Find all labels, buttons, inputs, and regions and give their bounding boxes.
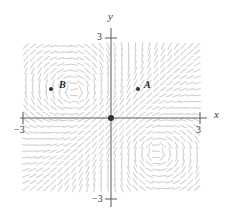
slope-dash: [106, 124, 111, 130]
slope-dash: [92, 44, 97, 49]
slope-dash: [140, 180, 146, 185]
slope-dash: [70, 107, 77, 108]
slope-dash: [51, 186, 56, 191]
slope-dash: [146, 112, 152, 116]
slope-dash: [146, 143, 151, 148]
slope-dash: [57, 58, 64, 60]
slope-dash: [187, 95, 194, 96]
slope-dash: [162, 148, 163, 155]
slope-dash: [51, 174, 56, 179]
slope-dash: [79, 173, 82, 179]
slope-dash: [187, 113, 194, 115]
slope-dash: [44, 105, 49, 110]
slope-dash: [173, 88, 180, 91]
slope-dash: [175, 160, 179, 166]
slope-dash: [86, 166, 89, 172]
slope-dash: [174, 174, 180, 178]
slope-dash: [188, 43, 193, 48]
slope-dash: [30, 112, 36, 117]
slope-dash: [166, 101, 173, 103]
slope-dash: [140, 167, 145, 172]
slope-dash: [57, 46, 64, 47]
slope-dash: [77, 113, 84, 116]
slope-dash: [65, 173, 70, 179]
slope-dash: [29, 125, 36, 128]
slope-dash: [43, 112, 49, 116]
slope-dash: [113, 136, 117, 142]
slope-dash: [79, 161, 83, 167]
slope-dash: [50, 126, 57, 127]
slope-dash: [79, 185, 81, 192]
slope-dash: [64, 100, 70, 103]
slope-dash: [36, 156, 43, 158]
slope-dash: [180, 69, 186, 73]
slope-dash: [173, 101, 180, 103]
slope-dash: [126, 130, 130, 136]
slope-dash: [50, 51, 57, 53]
slope-dash: [148, 43, 150, 50]
slope-dash: [85, 118, 91, 122]
slope-dash: [64, 137, 71, 140]
slope-dash: [139, 186, 145, 190]
slope-dash: [50, 144, 57, 146]
slope-dash: [174, 167, 179, 172]
slope-dash: [106, 99, 109, 105]
slope-dash: [187, 130, 192, 135]
slope-dash: [29, 151, 36, 152]
slope-dash: [154, 62, 158, 68]
slope-dash: [187, 82, 194, 84]
slope-dash: [180, 101, 187, 102]
slope-dash: [36, 151, 43, 152]
slope-dash: [160, 155, 165, 160]
slope-dash: [70, 64, 77, 65]
slope-dash: [32, 80, 33, 87]
y-axis-label: y: [108, 10, 113, 22]
slope-dash: [154, 68, 158, 74]
slope-dash: [174, 136, 179, 141]
slope-dash: [174, 75, 180, 79]
slope-dash: [159, 169, 166, 171]
slope-dash: [113, 124, 117, 130]
slope-dash: [50, 45, 57, 47]
slope-dash: [43, 45, 50, 48]
slope-dash: [64, 149, 70, 153]
slope-dash: [188, 173, 192, 179]
slope-dash: [140, 136, 145, 141]
slope-dash: [146, 106, 152, 110]
slope-dash: [152, 151, 159, 152]
slope-dash: [195, 136, 199, 142]
slope-dash: [44, 68, 49, 74]
slope-dash: [37, 112, 43, 116]
slope-dash: [36, 125, 43, 127]
slope-dash: [92, 130, 97, 135]
slope-dash: [106, 43, 109, 49]
origin-equilibrium-point: [108, 115, 114, 121]
slope-dash: [128, 42, 129, 49]
slope-dash: [50, 63, 56, 67]
direction-field-plot: [0, 0, 234, 223]
slope-dash: [78, 149, 83, 154]
slope-dash: [166, 181, 173, 183]
slope-dash: [159, 113, 166, 115]
slope-dash: [161, 49, 164, 55]
slope-dash: [160, 81, 166, 86]
slope-dash: [92, 62, 96, 68]
slope-dash: [126, 105, 131, 111]
slope-dash: [24, 50, 29, 55]
slope-dash: [92, 142, 97, 148]
slope-dash: [187, 56, 193, 60]
slope-dash: [99, 124, 104, 129]
slope-dash: [31, 99, 35, 105]
slope-dash: [30, 44, 36, 48]
slope-dash: [30, 186, 36, 190]
slope-dash: [37, 105, 42, 110]
slope-dash: [70, 58, 77, 59]
slope-dash: [57, 63, 64, 65]
slope-dash: [24, 105, 29, 111]
slope-dash: [120, 111, 125, 117]
slope-dash: [37, 174, 43, 178]
slope-dash: [159, 107, 166, 109]
slope-dash: [43, 168, 49, 172]
slope-dash: [23, 112, 28, 117]
slope-dash: [147, 68, 151, 74]
